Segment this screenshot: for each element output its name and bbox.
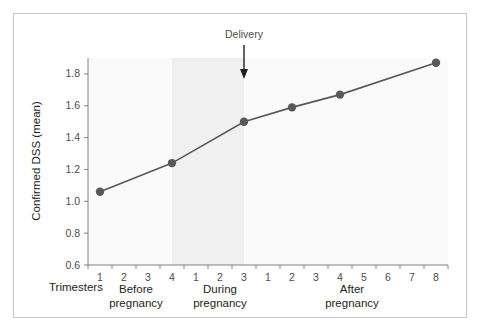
x-tick-label: 2 [217,271,223,283]
line-chart: 0.60.81.01.21.41.61.8 123412312345678 De… [0,0,480,336]
x-tick-label: 4 [337,271,343,283]
plot-background [88,58,448,265]
y-axis-ticks: 0.60.81.01.21.41.61.8 [65,67,88,270]
x-tick-label: 1 [265,271,271,283]
y-axis-title: Confirmed DSS (mean) [30,101,42,221]
x-tick-label: 1 [193,271,199,283]
during-pregnancy-band [172,58,244,265]
data-point [96,188,104,196]
x-tick-label: 5 [361,271,367,283]
x-tick-label: 2 [121,271,127,283]
y-tick-label: 0.8 [65,227,80,239]
y-tick-label: 1.4 [65,131,80,143]
x-tick-label: 3 [313,271,319,283]
figure-container: 0.60.81.01.21.41.61.8 123412312345678 De… [0,0,480,336]
x-tick-label: 3 [241,271,247,283]
data-point [288,103,296,111]
data-point [240,117,248,125]
data-point [168,159,176,167]
x-group-label-line1: During [203,283,237,295]
x-tick-label: 6 [385,271,391,283]
x-tick-label: 7 [409,271,415,283]
x-group-label-line1: After [340,283,364,295]
y-tick-label: 1.8 [65,67,80,79]
data-point [432,59,440,67]
x-tick-label: 8 [433,271,439,283]
x-group-label-line1: Before [119,283,153,295]
x-group-label-line2: pregnancy [325,297,379,309]
y-tick-label: 1.0 [65,195,80,207]
x-group-label-line2: pregnancy [193,297,247,309]
data-point [336,90,344,98]
x-axis-ticks: 123412312345678 [88,265,448,283]
y-tick-label: 0.6 [65,259,80,271]
x-tick-label: 4 [169,271,175,283]
x-axis-group-labels: BeforepregnancyDuringpregnancyAfterpregn… [109,283,379,309]
y-tick-label: 1.6 [65,99,80,111]
x-group-label-line2: pregnancy [109,297,163,309]
x-tick-label: 2 [289,271,295,283]
x-tick-label: 3 [145,271,151,283]
y-tick-label: 1.2 [65,163,80,175]
delivery-label: Delivery [225,28,264,40]
x-axis-group-title: Trimesters [49,281,103,293]
